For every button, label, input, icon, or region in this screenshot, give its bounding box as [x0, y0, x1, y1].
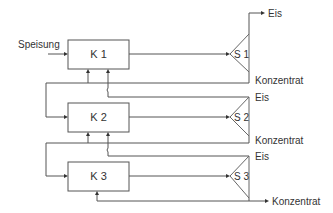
feed-label: Speisung — [18, 39, 60, 50]
s2-eis-to-k1-line — [107, 71, 249, 97]
s3-eis-to-k2-line — [107, 134, 249, 156]
s3-eis-label: Eis — [255, 151, 269, 162]
crystallizer-k3-label: K 3 — [90, 170, 107, 182]
s1-eis-arrow-icon — [261, 11, 265, 15]
s3-recycle-to-k3-line — [97, 193, 249, 201]
s3-konzentrat-label: Konzentrat — [272, 196, 321, 207]
separator-s2-label: S 2 — [234, 112, 249, 123]
s3-eis-to-k2-arrow-icon — [106, 132, 110, 136]
s2-eis-label: Eis — [255, 92, 269, 103]
s1-konzentrat-arrow-icon — [64, 115, 68, 119]
separator-s3-label: S 3 — [234, 171, 249, 182]
s2-konzentrat-arrow-icon — [64, 174, 68, 178]
s1-konzentrat-label: Konzentrat — [255, 75, 304, 86]
crystallizer-k1-label: K 1 — [90, 48, 107, 60]
s3-konzentrat-arrow-icon — [265, 199, 269, 203]
s2-eis-to-k1-arrow-icon — [106, 69, 110, 73]
loop-to-k1-arrow-icon — [86, 69, 90, 73]
crystallizer-k2-label: K 2 — [90, 111, 107, 123]
s3-recycle-to-k3-arrow-icon — [95, 191, 99, 195]
s1-eis-label: Eis — [268, 8, 282, 19]
process-flow-diagram: Speisung K 1 S 1 Eis Konzentrat K 2 S 2 … — [0, 0, 333, 213]
feed-arrow-icon — [64, 52, 68, 56]
loop-to-k2-arrow-icon — [86, 132, 90, 136]
separator-s1-label: S 1 — [234, 49, 249, 60]
s2-konzentrat-label: Konzentrat — [255, 135, 304, 146]
s1-eis-line — [249, 13, 262, 34]
